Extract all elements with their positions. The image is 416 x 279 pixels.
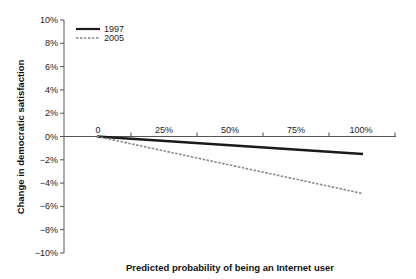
x-tick-label: 0: [95, 125, 100, 135]
x-tick-label: 50%: [221, 125, 239, 135]
line-chart: 10%8%6%4%2%0%−2%−4%−6%−8%−10% 025%50%75%…: [0, 0, 416, 279]
y-tick-label: 0%: [45, 132, 58, 142]
y-tick-label: −10%: [35, 248, 58, 258]
y-tick-label: −6%: [40, 201, 58, 211]
y-tick-label: −2%: [40, 155, 58, 165]
y-tick-label: 10%: [40, 15, 58, 25]
y-tick-label: 8%: [45, 38, 58, 48]
y-axis-title: Change in democratic satisfaction: [15, 59, 26, 214]
series-lines: [97, 137, 363, 194]
x-tick-label: 75%: [287, 125, 305, 135]
y-tick-label: 4%: [45, 85, 58, 95]
y-tick-label: −8%: [40, 225, 58, 235]
x-tick-label: 100%: [349, 125, 372, 135]
y-axis: 10%8%6%4%2%0%−2%−4%−6%−8%−10%: [35, 15, 64, 258]
y-tick-label: 6%: [45, 62, 58, 72]
x-axis: 025%50%75%100%: [64, 125, 396, 137]
legend-label: 2005: [104, 33, 124, 43]
x-axis-title: Predicted probability of being an Intern…: [126, 262, 334, 273]
legend: 19972005: [76, 24, 124, 43]
y-tick-label: −4%: [40, 178, 58, 188]
y-tick-label: 2%: [45, 108, 58, 118]
x-tick-label: 25%: [155, 125, 173, 135]
